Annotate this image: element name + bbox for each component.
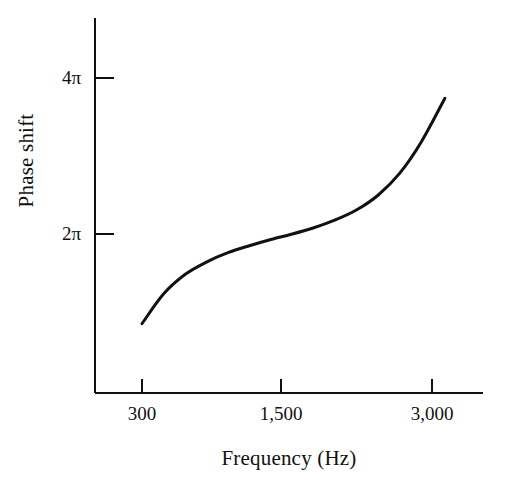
y-tick-label-4pi: 4π <box>62 68 95 87</box>
chart-figure: 4π 2π 300 1,500 3,000 Frequency (Hz) Pha… <box>0 0 505 491</box>
x-tick-label-3000: 3,000 <box>382 404 482 423</box>
x-axis-title: Frequency (Hz) <box>95 446 483 471</box>
y-tick-label-2pi: 2π <box>62 224 95 243</box>
data-series-line <box>142 98 445 323</box>
x-tick-label-300: 300 <box>102 404 182 423</box>
y-axis-title: Phase shift <box>14 91 39 231</box>
x-tick-label-1500: 1,500 <box>231 404 331 423</box>
